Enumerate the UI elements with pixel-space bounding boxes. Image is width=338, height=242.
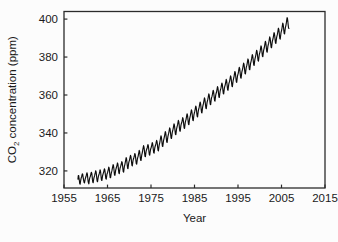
x-tick-label-1975: 1975 — [138, 192, 164, 204]
x-tick-label-2005: 2005 — [269, 192, 295, 204]
x-tick-label-1955: 1955 — [51, 192, 77, 204]
y-tick-label-360: 360 — [39, 89, 58, 101]
x-tick-label-1985: 1985 — [182, 192, 208, 204]
y-tick-label-340: 340 — [39, 127, 58, 139]
co2-chart-figure: 1955196519751985199520052015 32034036038… — [0, 0, 338, 242]
x-tick-label-1965: 1965 — [95, 192, 121, 204]
x-tick-label-1995: 1995 — [225, 192, 251, 204]
x-axis-title: Year — [183, 212, 206, 224]
y-tick-label-380: 380 — [39, 51, 58, 63]
y-tick-label-320: 320 — [39, 165, 58, 177]
chart-background — [0, 0, 338, 242]
x-tick-label-2015: 2015 — [312, 192, 338, 204]
chart-canvas: 1955196519751985199520052015 32034036038… — [0, 0, 338, 242]
y-tick-label-400: 400 — [39, 13, 58, 25]
